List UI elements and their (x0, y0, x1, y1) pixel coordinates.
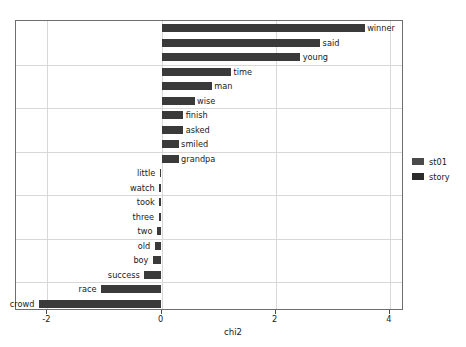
x-axis-label: chi2 (0, 327, 466, 337)
bar[interactable] (155, 242, 162, 250)
bar-value-label: took (137, 198, 155, 206)
bar-row: time (16, 65, 402, 80)
bar-value-label: crowd (10, 300, 35, 308)
bar-value-label: success (108, 271, 140, 279)
bar-row: three (16, 210, 402, 225)
bar-row: wise (16, 94, 402, 109)
bar-row: crowd (16, 297, 402, 312)
bar[interactable] (144, 271, 161, 279)
bar-row: finish (16, 108, 402, 123)
bar[interactable] (162, 140, 179, 148)
bar[interactable] (162, 111, 184, 119)
legend-label: st01 (429, 157, 447, 167)
bar-row: boy (16, 253, 402, 268)
bar-value-label: watch (130, 184, 155, 192)
bar-row: old (16, 239, 402, 254)
bar-value-label: boy (133, 256, 148, 264)
bar-value-label: wise (197, 97, 215, 105)
bar-row: little (16, 166, 402, 181)
bar-row: young (16, 50, 402, 65)
x-tick-label: 0 (158, 314, 163, 324)
bar[interactable] (162, 155, 179, 163)
bar-row: said (16, 36, 402, 51)
legend-entry[interactable]: st01 (412, 155, 450, 168)
x-tick-label: 4 (386, 314, 391, 324)
bar-row: took (16, 195, 402, 210)
bar[interactable] (160, 169, 162, 177)
bar-row: success (16, 268, 402, 283)
bar-value-label: three (132, 213, 154, 221)
bar-row: winner (16, 21, 402, 36)
bar-value-label: finish (186, 111, 208, 119)
bar-value-label: young (303, 53, 328, 61)
bar-value-label: old (138, 242, 150, 250)
bar-value-label: winner (367, 24, 395, 32)
bar-value-label: smiled (181, 140, 208, 148)
bar-row: asked (16, 123, 402, 138)
bar-row: smiled (16, 137, 402, 152)
bar[interactable] (162, 82, 212, 90)
bar-value-label: two (138, 227, 153, 235)
legend-label: story (429, 172, 450, 182)
bar[interactable] (162, 126, 184, 134)
chart-figure: winnersaidyoungtimemanwisefinishaskedsmi… (0, 0, 466, 347)
bar[interactable] (153, 256, 162, 264)
x-tick-label: -2 (42, 314, 50, 324)
bar-value-label: grandpa (181, 155, 215, 163)
legend-entry[interactable]: story (412, 170, 450, 183)
bar[interactable] (162, 97, 195, 105)
bar-row: grandpa (16, 152, 402, 167)
bar[interactable] (101, 285, 161, 293)
bar-row: watch (16, 181, 402, 196)
bar[interactable] (39, 300, 162, 308)
bar-value-label: little (137, 169, 155, 177)
bar-value-label: man (214, 82, 232, 90)
bar-row: man (16, 79, 402, 94)
bar[interactable] (162, 68, 232, 76)
bar[interactable] (159, 184, 161, 192)
bar-value-label: time (234, 68, 253, 76)
bar-value-label: asked (186, 126, 210, 134)
bar[interactable] (159, 198, 161, 206)
bar-row: two (16, 224, 402, 239)
plot-area: winnersaidyoungtimemanwisefinishaskedsmi… (15, 20, 403, 310)
bar[interactable] (159, 213, 162, 221)
bar[interactable] (157, 227, 162, 235)
bar-value-label: race (79, 285, 97, 293)
legend-swatch (412, 173, 424, 180)
legend: st01story (412, 155, 450, 185)
bar-row: race (16, 282, 402, 297)
bar[interactable] (162, 39, 321, 47)
legend-swatch (412, 158, 424, 165)
bar[interactable] (162, 53, 301, 61)
x-tick-label: 2 (272, 314, 277, 324)
bar[interactable] (162, 24, 365, 32)
bar-value-label: said (323, 39, 340, 47)
